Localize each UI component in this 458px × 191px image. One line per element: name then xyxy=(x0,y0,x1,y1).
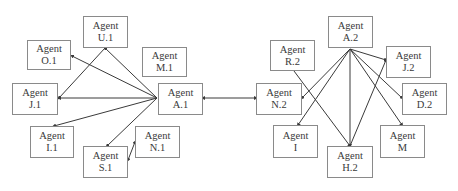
connection-layer xyxy=(0,0,458,191)
agent-label: Agent xyxy=(22,87,48,99)
agent-node-m1: AgentM.1 xyxy=(142,47,187,77)
agent-id: D.2 xyxy=(417,99,432,111)
agent-node-i: AgentI xyxy=(273,125,318,158)
agent-node-u1: AgentU.1 xyxy=(83,16,128,48)
agent-id: I xyxy=(294,142,298,154)
agent-label: Agent xyxy=(412,87,438,99)
agent-node-o1: AgentO.1 xyxy=(27,40,71,70)
agent-label: Agent xyxy=(93,20,119,32)
edge-a1-to-i1 xyxy=(54,98,157,126)
agent-label: Agent xyxy=(396,50,422,62)
agent-label: Agent xyxy=(145,130,171,142)
agent-id: I.1 xyxy=(46,142,57,154)
agent-id: N.1 xyxy=(150,142,165,154)
agent-node-j1: AgentJ.1 xyxy=(12,83,58,115)
agent-node-j2: AgentJ.2 xyxy=(386,46,431,78)
agent-label: Agent xyxy=(152,50,178,62)
agent-id: R.2 xyxy=(285,56,300,68)
agent-label: Agent xyxy=(39,130,65,142)
agent-id: J.1 xyxy=(29,99,41,111)
agent-node-r2: AgentR.2 xyxy=(270,40,315,71)
agent-node-a1: AgentA.1 xyxy=(158,83,203,115)
agent-node-d2: AgentD.2 xyxy=(402,83,447,115)
edge-s1-to-n1 xyxy=(128,142,135,160)
agent-network-diagram: AgentU.1AgentO.1AgentM.1AgentJ.1AgentA.1… xyxy=(0,0,458,191)
agent-id: A.1 xyxy=(173,99,188,111)
agent-id: S.1 xyxy=(99,162,113,174)
agent-node-m: AgentM xyxy=(380,125,425,158)
agent-id: J.2 xyxy=(403,62,415,74)
agent-label: Agent xyxy=(337,150,363,162)
agent-label: Agent xyxy=(280,44,306,56)
agent-id: M xyxy=(398,142,407,154)
agent-id: N.2 xyxy=(271,99,286,111)
agent-id: H.2 xyxy=(342,162,357,174)
agent-label: Agent xyxy=(93,150,119,162)
agent-label: Agent xyxy=(168,87,194,99)
agent-id: U.1 xyxy=(98,32,113,44)
agent-id: M.1 xyxy=(156,62,173,74)
agent-label: Agent xyxy=(283,130,309,142)
agent-node-s1: AgentS.1 xyxy=(83,146,128,178)
agent-node-n2: AgentN.2 xyxy=(256,83,302,115)
agent-node-a2: AgentA.2 xyxy=(328,16,373,48)
agent-node-n1: AgentN.1 xyxy=(135,126,180,158)
agent-id: A.2 xyxy=(343,32,358,44)
agent-label: Agent xyxy=(338,20,364,32)
agent-label: Agent xyxy=(36,43,62,55)
agent-node-h2: AgentH.2 xyxy=(327,146,373,178)
agent-id: O.1 xyxy=(41,55,56,67)
agent-label: Agent xyxy=(390,130,416,142)
agent-label: Agent xyxy=(266,87,292,99)
agent-node-i1: AgentI.1 xyxy=(30,126,74,158)
